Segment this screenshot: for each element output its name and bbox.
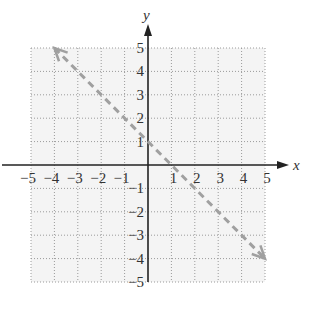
x-tick-label: 1 [170,170,178,186]
x-tick-label: 2 [193,170,201,186]
y-tick-label: −1 [128,180,144,196]
x-tick-label: −2 [90,170,106,186]
y-tick-label: −2 [128,204,144,220]
x-tick-label: −5 [20,170,36,186]
y-axis-arrow-icon [144,24,152,36]
y-axis-label: y [141,7,150,23]
x-tick-label: −3 [67,170,83,186]
x-axis-arrow-icon [277,161,289,169]
x-tick-label: 4 [240,170,248,186]
y-tick-label: 2 [137,110,145,126]
x-tick-label: −4 [43,170,59,186]
y-tick-label: 3 [137,87,145,103]
y-tick-label: −3 [128,227,144,243]
y-tick-label: 4 [137,63,145,79]
coordinate-plane: xy−5−4−3−2−112345−5−4−3−2−112345 [0,0,310,314]
x-axis-label: x [292,157,300,173]
y-tick-label: 1 [137,134,145,150]
x-tick-label: 3 [216,170,224,186]
x-tick-label: 5 [263,170,271,186]
y-tick-label: −5 [128,274,144,290]
y-tick-label: −4 [128,251,144,267]
y-tick-label: 5 [137,40,145,56]
